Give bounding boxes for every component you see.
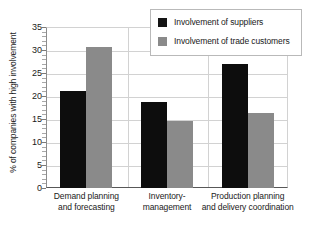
x-axis-category-label-line: Production planning — [188, 191, 308, 202]
legend: Involvement of suppliers Involvement of … — [150, 9, 302, 56]
bar-chart: % of companies with high involvement 051… — [0, 0, 309, 231]
legend-item-trade-customers: Involvement of trade customers — [158, 35, 290, 47]
bar-trade-customers — [248, 113, 274, 188]
y-axis-title: % of companies with high involvement — [6, 15, 20, 190]
bar-suppliers — [222, 64, 248, 188]
legend-swatch-icon-trade-customers — [158, 37, 167, 46]
y-axis-tick-label: 10 — [22, 137, 42, 147]
bar-trade-customers — [86, 47, 112, 188]
bar-suppliers — [141, 102, 167, 188]
legend-item-suppliers: Involvement of suppliers — [158, 16, 263, 28]
y-axis-tick-label: 5 — [22, 160, 42, 170]
x-axis-category-label: Production planningand delivery coordina… — [188, 191, 308, 213]
x-axis-category-label-line: and delivery coordination — [188, 202, 308, 213]
y-axis-tick-label: 15 — [22, 114, 42, 124]
legend-label-suppliers: Involvement of suppliers — [174, 17, 263, 27]
y-axis-tick-label: 30 — [22, 45, 42, 55]
x-axis-category-labels: Demand planningand forecastingInventory-… — [46, 191, 288, 231]
bar-suppliers — [60, 91, 86, 188]
y-axis-tick-label: 25 — [22, 68, 42, 78]
y-axis-major-tick — [41, 188, 46, 189]
bar-trade-customers — [167, 121, 193, 188]
legend-label-trade-customers: Involvement of trade customers — [174, 36, 290, 46]
legend-swatch-icon-suppliers — [158, 18, 167, 27]
y-axis-tick-label: 20 — [22, 91, 42, 101]
y-axis-tick-label: 35 — [22, 22, 42, 32]
